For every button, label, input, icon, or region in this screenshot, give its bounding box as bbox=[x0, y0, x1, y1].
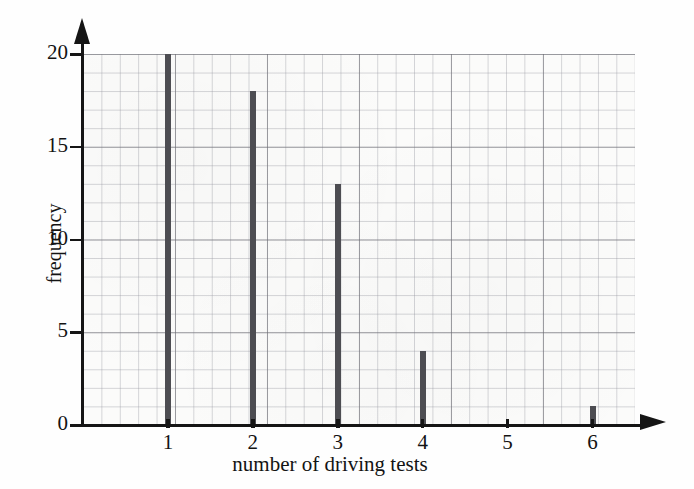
y-tick-15 bbox=[70, 146, 84, 149]
y-tick-label-15: 15 bbox=[30, 133, 68, 158]
y-tick-0 bbox=[70, 424, 84, 427]
bar-2 bbox=[250, 91, 256, 425]
y-tick-5 bbox=[70, 331, 84, 334]
x-tick-3 bbox=[336, 419, 340, 428]
bar-4 bbox=[420, 351, 426, 425]
x-axis-arrow-icon bbox=[640, 414, 666, 430]
x-tick-2 bbox=[251, 419, 255, 428]
x-tick-5 bbox=[506, 419, 510, 428]
y-axis-label: frequency bbox=[43, 174, 66, 314]
y-tick-label-20: 20 bbox=[30, 40, 68, 65]
y-tick-20 bbox=[70, 53, 84, 56]
x-tick-4 bbox=[421, 419, 425, 428]
y-tick-10 bbox=[70, 239, 84, 242]
x-tick-6 bbox=[591, 419, 595, 428]
x-tick-1 bbox=[166, 419, 170, 428]
bar-3 bbox=[335, 184, 341, 425]
y-tick-label-5: 5 bbox=[30, 318, 68, 343]
y-axis-line bbox=[81, 40, 84, 427]
y-axis-arrow-icon bbox=[74, 18, 90, 44]
bar-1 bbox=[165, 54, 171, 425]
y-tick-label-0: 0 bbox=[30, 411, 68, 436]
driving-tests-bar-chart: 05101520 123456 frequency number of driv… bbox=[0, 0, 694, 489]
x-axis-label: number of driving tests bbox=[0, 452, 660, 477]
plot-area bbox=[83, 54, 635, 425]
